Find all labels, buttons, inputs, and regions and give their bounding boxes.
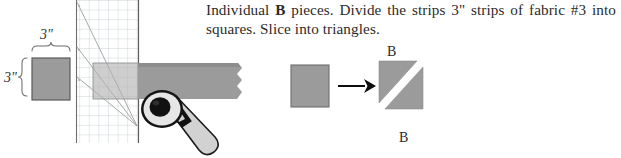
dimension-brace-left — [18, 58, 27, 96]
dimension-brace-top — [32, 42, 70, 51]
top-dimension-label: 3" — [40, 27, 53, 43]
source-square — [291, 65, 329, 107]
instruction-bold-token: B — [275, 1, 285, 18]
instruction-text-before-bold: Individual — [206, 1, 275, 18]
left-dimension-label: 3" — [4, 70, 17, 86]
triangle-label-top: B — [387, 44, 396, 60]
transform-arrow-icon — [338, 79, 376, 93]
square-to-triangles-graphic — [286, 58, 436, 136]
three-inch-square — [32, 58, 70, 100]
rotary-cutter-graphic — [132, 82, 232, 158]
fabric-strip-top-band — [138, 63, 241, 67]
triangle-label-bottom: B — [399, 130, 408, 146]
mat-angle-tick-1 — [78, 5, 80, 7]
cutter-blade-highlight — [153, 101, 159, 106]
illustration-page: 3" 3" B B Individual B pieces. Divide th… — [0, 0, 621, 158]
instruction-paragraph: Individual B pieces. Divide the strips 3… — [206, 0, 616, 38]
cutter-blade-hub — [150, 97, 171, 117]
